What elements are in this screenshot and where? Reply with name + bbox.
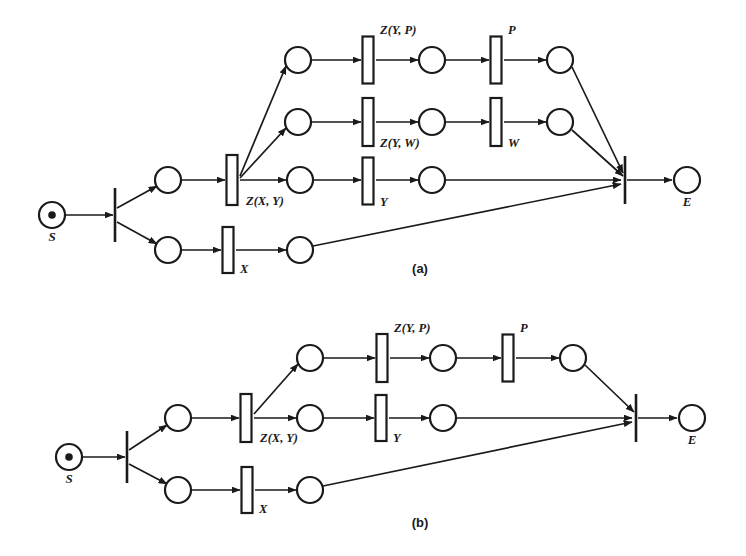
transition-t-b-x[interactable] xyxy=(242,467,253,513)
place-p-a-r3-out[interactable] xyxy=(419,167,445,193)
transition-t-a-p[interactable] xyxy=(491,37,502,84)
arcs-a xyxy=(66,60,672,250)
panel-b-caption: (b) xyxy=(412,515,429,530)
token-S xyxy=(65,453,73,461)
arc-t-b-zxy-to-p-b-r1-in xyxy=(254,364,298,414)
arc-p-a-r2-out-to-t-a-join xyxy=(572,130,623,176)
place-p-a-r4-out[interactable] xyxy=(287,237,313,263)
arc-t-b-split-to-p-b-bottom-branch xyxy=(129,464,167,484)
transition-t-a-w[interactable] xyxy=(491,98,502,146)
place-p-a-r3-mid[interactable] xyxy=(287,167,313,193)
transition-t-b-zxy[interactable] xyxy=(241,394,252,442)
transition-label-t-b-p: P xyxy=(520,321,528,335)
place-p-b-r3-out[interactable] xyxy=(297,477,323,503)
place-p-a-bottom-branch[interactable] xyxy=(155,237,181,263)
place-p-b-r1-mid[interactable] xyxy=(430,345,456,371)
place-E[interactable] xyxy=(679,405,705,431)
arc-p-b-r3-out-to-t-b-join xyxy=(323,422,632,486)
arc-t-a-split-to-p-a-top-branch xyxy=(117,186,157,208)
place-p-a-r1-mid[interactable] xyxy=(419,47,445,73)
transition-label-t-a-zyp: Z(Y, P) xyxy=(379,23,416,37)
place-label-S: S xyxy=(48,229,55,244)
place-p-a-r1-out[interactable] xyxy=(547,47,573,73)
transition-label-t-a-p: P xyxy=(508,23,516,37)
arc-p-a-r1-out-to-t-a-join xyxy=(572,67,623,173)
transition-label-t-a-y: Y xyxy=(380,195,389,209)
place-p-a-top-branch[interactable] xyxy=(155,167,181,193)
place-label-E: E xyxy=(682,194,692,209)
arc-t-b-split-to-p-b-top-branch xyxy=(129,425,167,450)
petri-net-canvas: Z(X, Y)Z(Y, P)PZ(Y, W)WYXSE Z(X, Y)Z(Y, … xyxy=(0,0,746,556)
place-p-a-r1-in[interactable] xyxy=(285,47,311,73)
arc-t-a-zxy-to-p-a-r2-in xyxy=(240,128,286,178)
place-p-a-r2-mid[interactable] xyxy=(419,109,445,135)
token-S xyxy=(48,211,56,219)
panel-a-caption: (a) xyxy=(412,261,428,276)
place-label-S: S xyxy=(65,471,72,486)
place-p-a-r2-out[interactable] xyxy=(547,109,573,135)
place-p-a-r2-in[interactable] xyxy=(285,109,311,135)
transition-label-t-a-zxy: Z(X, Y) xyxy=(245,194,284,208)
panel-b: Z(X, Y)Z(Y, P)PYXSE xyxy=(56,321,705,516)
place-p-b-r1-in[interactable] xyxy=(297,345,323,371)
place-p-b-r1-out[interactable] xyxy=(560,345,586,371)
transition-label-t-b-x: X xyxy=(258,502,268,516)
transition-label-t-b-zxy: Z(X, Y) xyxy=(259,431,298,445)
arc-t-a-split-to-p-a-bottom-branch xyxy=(117,222,157,244)
place-label-E: E xyxy=(687,432,697,447)
panel-a: Z(X, Y)Z(Y, P)PZ(Y, W)WYXSE xyxy=(39,23,700,276)
transition-t-b-y[interactable] xyxy=(376,395,387,441)
transition-t-b-p[interactable] xyxy=(503,335,514,382)
transition-t-a-zxy[interactable] xyxy=(227,155,238,205)
place-E[interactable] xyxy=(674,167,700,193)
place-p-b-r2-mid[interactable] xyxy=(297,405,323,431)
transition-t-a-y[interactable] xyxy=(363,158,374,205)
transition-t-a-x[interactable] xyxy=(223,227,234,273)
arc-t-a-zxy-to-p-a-r1-in xyxy=(240,66,286,176)
place-p-b-top-branch[interactable] xyxy=(165,405,191,431)
transition-label-t-b-y: Y xyxy=(393,431,402,445)
arc-p-a-r4-out-to-t-a-join xyxy=(313,184,621,246)
place-p-b-bottom-branch[interactable] xyxy=(165,477,191,503)
transition-label-t-a-x: X xyxy=(239,262,249,276)
transition-label-t-a-zyw: Z(Y, W) xyxy=(379,136,420,150)
transition-t-a-zyw[interactable] xyxy=(363,98,374,146)
place-p-b-r2-out[interactable] xyxy=(430,405,456,431)
transition-t-b-zyp[interactable] xyxy=(377,334,388,382)
arc-p-b-r1-out-to-t-b-join xyxy=(585,365,634,412)
transition-t-a-zyp[interactable] xyxy=(363,37,374,84)
petri-net-figure: Z(X, Y)Z(Y, P)PZ(Y, W)WYXSE Z(X, Y)Z(Y, … xyxy=(0,0,746,556)
transition-label-t-b-zyp: Z(Y, P) xyxy=(393,321,430,335)
transition-label-t-a-w: W xyxy=(508,136,520,150)
